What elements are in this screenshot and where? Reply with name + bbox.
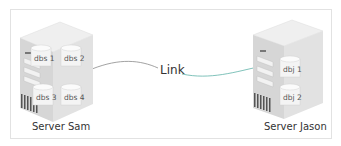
server-sam-label: Server Sam	[32, 121, 90, 132]
svg-text:dbs 2: dbs 2	[64, 54, 85, 63]
server-jason-label: Server Jason	[264, 121, 327, 132]
svg-text:dbs 3: dbs 3	[36, 93, 57, 102]
link-label: Link	[160, 63, 185, 77]
svg-text:dbj 1: dbj 1	[283, 65, 302, 74]
link-connector	[92, 61, 158, 69]
server-sam-icon: dbs 1 dbs 2 dbs 3 dbs 4	[20, 22, 93, 122]
svg-text:dbj 2: dbj 2	[283, 93, 302, 102]
server-jason-icon: dbj 1 dbj 2	[253, 20, 323, 119]
svg-text:dbs 4: dbs 4	[64, 93, 85, 102]
database-icon: dbj 2	[280, 84, 302, 105]
database-icon: dbj 1	[280, 56, 302, 77]
link-connector-right	[182, 66, 262, 76]
svg-text:dbs 1: dbs 1	[34, 54, 55, 63]
